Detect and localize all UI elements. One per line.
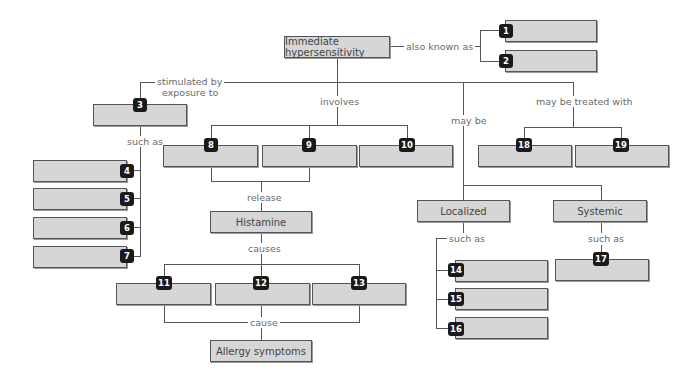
connector [601, 185, 602, 200]
number-badge-15: 15 [448, 292, 464, 306]
number-badge-4: 4 [120, 164, 134, 178]
node-allergy-symptoms: Allergy symptoms [210, 340, 312, 362]
node-systemic: Systemic [553, 200, 647, 222]
link-may-be-treated-with: may be treated with [534, 96, 634, 107]
node-immediate-hypersensitivity: Immediate hypersensitivity [284, 36, 390, 58]
number-badge-16: 16 [448, 322, 464, 336]
number-badge-3: 3 [133, 98, 147, 112]
number-badge-6: 6 [120, 221, 134, 235]
number-badge-1: 1 [499, 24, 513, 38]
link-involves: involves [318, 96, 361, 107]
number-badge-14: 14 [448, 263, 464, 277]
connector [211, 167, 212, 182]
number-badge-19: 19 [613, 138, 629, 152]
number-badge-11: 11 [156, 276, 172, 290]
blank-box-6[interactable] [33, 217, 127, 239]
blank-box-16[interactable] [455, 317, 548, 339]
blank-box-14[interactable] [455, 260, 548, 282]
link-may-be: may be [449, 115, 489, 126]
connector [164, 305, 165, 323]
node-localized: Localized [417, 200, 510, 222]
connector [309, 167, 310, 182]
connector [359, 305, 360, 323]
connector [480, 30, 481, 62]
blank-box-15[interactable] [455, 288, 548, 310]
link-causes: causes [246, 243, 283, 254]
number-badge-12: 12 [253, 276, 269, 290]
link-cause: cause [248, 317, 280, 328]
blank-box-1[interactable] [505, 20, 597, 42]
connector [463, 82, 464, 200]
number-badge-9: 9 [302, 138, 316, 152]
number-badge-18: 18 [516, 138, 532, 152]
link-such-as-systemic: such as [586, 233, 626, 244]
link-also-known-as: also known as [404, 41, 475, 52]
number-badge-10: 10 [399, 138, 415, 152]
number-badge-17: 17 [593, 252, 609, 266]
connector [436, 238, 437, 328]
link-such-as-localized: such as [447, 233, 487, 244]
number-badge-13: 13 [351, 276, 367, 290]
blank-box-4[interactable] [33, 160, 127, 182]
blank-box-5[interactable] [33, 188, 127, 210]
node-histamine: Histamine [210, 211, 312, 233]
blank-box-2[interactable] [505, 50, 597, 72]
blank-box-7[interactable] [33, 246, 127, 268]
connector [463, 185, 602, 186]
connector [164, 264, 360, 265]
connector [390, 46, 404, 47]
number-badge-2: 2 [499, 54, 513, 68]
connector [337, 57, 338, 83]
link-such-as-3: such as [125, 136, 165, 147]
link-stimulated-by: stimulated by [155, 76, 224, 87]
number-badge-8: 8 [204, 138, 218, 152]
number-badge-5: 5 [120, 192, 134, 206]
number-badge-7: 7 [120, 249, 134, 263]
link-exposure-to: exposure to [160, 87, 220, 98]
connector [524, 127, 622, 128]
link-release: release [245, 192, 284, 203]
